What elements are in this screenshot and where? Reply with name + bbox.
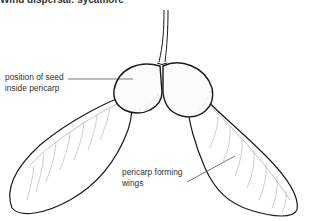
seed-heads [114,63,213,117]
seed-label-line-2: inside pericarp [5,83,64,94]
right-wing [188,98,297,216]
left-wing [10,95,132,214]
pericarp-wings-label: pericarp forming wings [122,167,183,189]
wing-label-line-1: pericarp forming [122,167,183,178]
wing-label-line-2: wings [122,178,183,189]
stem [157,10,168,65]
seed-position-label: position of seed inside pericarp [5,72,64,94]
seed-label-line-1: position of seed [5,72,64,83]
